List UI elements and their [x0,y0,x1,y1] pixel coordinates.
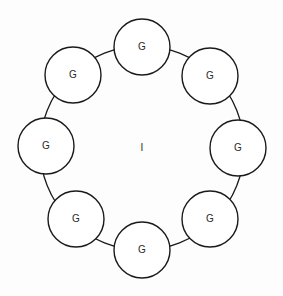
node-label: G [138,244,146,255]
diagram-canvas: GGGGGGGG I [0,0,283,296]
node-label: G [69,69,77,80]
node-g: G [18,118,74,174]
node-g: G [114,222,170,278]
node-g: G [45,47,101,103]
node-label: G [72,213,80,224]
node-label: G [206,213,214,224]
node-g: G [182,48,238,104]
node-g: G [182,191,238,247]
ring-diagram: GGGGGGGG I [0,0,283,296]
node-label: G [42,140,50,151]
center-label: I [141,142,144,153]
node-g: G [48,191,104,247]
node-g: G [210,120,266,176]
node-label: G [138,41,146,52]
node-label: G [206,70,214,81]
node-label: G [234,142,242,153]
node-g: G [114,19,170,75]
